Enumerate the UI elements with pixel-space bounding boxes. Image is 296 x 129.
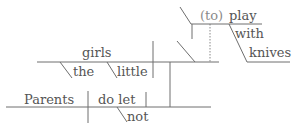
with-word: with: [235, 26, 265, 41]
object-word: girls: [82, 45, 112, 60]
not-modifier-line: [117, 107, 127, 122]
subject-word: Parents: [24, 92, 74, 107]
complement-slant: [177, 41, 195, 62]
the-word: the: [73, 64, 95, 79]
not-word: not: [127, 109, 149, 124]
play-word: play: [229, 8, 257, 23]
infinitive-slant: [180, 7, 191, 24]
little-modifier-line: [107, 62, 117, 78]
the-modifier-line: [60, 62, 72, 78]
little-word: little: [117, 64, 148, 79]
verb-word: do let: [98, 92, 136, 107]
infinitive-marker-word: (to): [200, 8, 223, 23]
sentence-diagram: Parents do let not girls the little (to)…: [0, 0, 296, 129]
knives-word: knives: [249, 45, 291, 60]
